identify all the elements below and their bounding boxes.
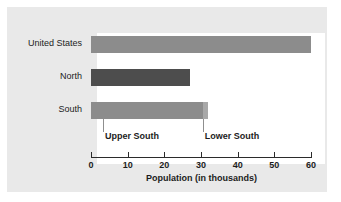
category-label-north: North xyxy=(0,71,86,81)
x-axis-tick xyxy=(274,152,275,158)
category-label-united-states: United States xyxy=(0,38,86,48)
x-axis-tick-label: 20 xyxy=(152,160,176,170)
x-axis-tick-label: 0 xyxy=(79,160,103,170)
annotation-lower-south: Lower South xyxy=(205,131,260,141)
x-axis-tick xyxy=(311,152,312,158)
x-axis-tick-label: 40 xyxy=(226,160,250,170)
x-axis-tick-label: 60 xyxy=(299,160,323,170)
bar-segment xyxy=(91,69,190,86)
annotation-upper-south: Upper South xyxy=(105,131,159,141)
bar-segment xyxy=(203,102,209,119)
x-axis-tick xyxy=(238,152,239,158)
x-axis-tick xyxy=(164,152,165,158)
bar-segment xyxy=(91,102,203,119)
leader-line-upper-south xyxy=(103,119,104,132)
x-axis-title: Population (in thousands) xyxy=(91,173,312,183)
x-axis-tick xyxy=(128,152,129,158)
x-axis-tick-label: 30 xyxy=(189,160,213,170)
chart-figure: United States North South Upper South Lo… xyxy=(0,0,341,202)
x-axis-tick xyxy=(91,152,92,158)
x-axis-tick-label: 50 xyxy=(262,160,286,170)
x-axis-tick-label: 10 xyxy=(116,160,140,170)
bar-united-states xyxy=(91,36,311,53)
bar-north xyxy=(91,69,190,86)
category-label-south: South xyxy=(0,104,86,114)
x-axis-tick xyxy=(201,152,202,158)
leader-line-lower-south xyxy=(203,119,204,132)
bar-south xyxy=(91,102,208,119)
bar-segment xyxy=(91,36,311,53)
